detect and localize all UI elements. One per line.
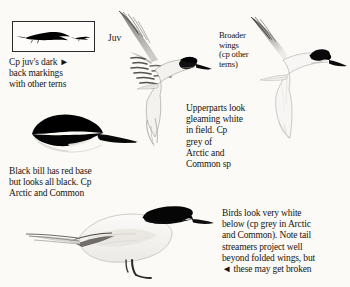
- note-juvenile-back-markings: Cp juv's dark ► back markings with other…: [9, 57, 124, 91]
- perched-tern: [18, 196, 214, 282]
- juvenile-silhouette-box: [12, 21, 95, 52]
- field-guide-plate: Cp juv's dark ► back markings with other…: [0, 0, 350, 287]
- note-upperparts-white: Upperparts look gleaming white in field.…: [186, 103, 282, 170]
- note-black-bill: Black bill has red base but looks all bl…: [9, 166, 144, 200]
- silhouette-icon: [13, 22, 94, 51]
- note-white-below: Birds look very white below (cp grey in …: [222, 208, 350, 275]
- tern-head-study: [28, 112, 148, 160]
